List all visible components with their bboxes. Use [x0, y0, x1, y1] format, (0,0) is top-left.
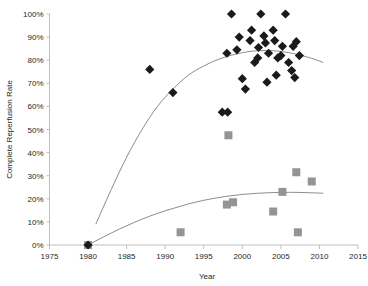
data-point-diamond — [168, 88, 177, 97]
y-tick-label: 40% — [27, 149, 43, 158]
x-tick-label: 2005 — [272, 252, 290, 261]
x-tick-label: 2010 — [311, 252, 329, 261]
data-point-diamond — [235, 33, 244, 42]
lower-trend-curve — [88, 192, 323, 245]
data-point-diamond — [238, 74, 247, 83]
scatter-plot: 0%10%20%30%40%50%60%70%80%90%100% 197519… — [0, 0, 368, 286]
x-tick-label: 1990 — [156, 252, 174, 261]
data-point-square — [292, 168, 300, 176]
y-axis-title: Complete Reperfusion Rate — [5, 80, 14, 179]
data-point-diamond — [270, 36, 279, 45]
data-point-diamond — [222, 49, 231, 58]
data-point-diamond — [295, 51, 304, 60]
data-point-diamond — [269, 26, 278, 35]
data-point-diamond — [264, 49, 273, 58]
x-tick-label: 1995 — [195, 252, 213, 261]
data-point-diamond — [281, 9, 290, 18]
y-tick-label: 100% — [23, 10, 43, 19]
y-tick-label: 80% — [27, 56, 43, 65]
data-point-square — [294, 228, 302, 236]
y-tick-label: 30% — [27, 172, 43, 181]
data-point-diamond — [247, 26, 256, 35]
y-tick-label: 0% — [32, 241, 44, 250]
upper-trend-curve — [96, 51, 324, 225]
data-point-diamond — [241, 84, 250, 93]
data-point-square — [308, 177, 316, 185]
trendlines-group — [88, 51, 323, 246]
y-tick-label: 70% — [27, 79, 43, 88]
axes-group — [47, 14, 359, 249]
data-point-diamond — [261, 38, 270, 47]
x-tick-labels: 197519801985199019952000200520102015 — [41, 252, 368, 261]
y-tick-label: 50% — [27, 126, 43, 135]
data-point-square — [278, 188, 286, 196]
y-tick-label: 60% — [27, 102, 43, 111]
data-point-diamond — [278, 42, 287, 51]
data-point-square — [224, 131, 232, 139]
x-tick-label: 2015 — [349, 252, 367, 261]
data-point-square — [269, 208, 277, 216]
data-point-diamond — [284, 58, 293, 67]
x-axis-title: Year — [199, 272, 216, 281]
x-tick-label: 2000 — [233, 252, 251, 261]
y-tick-label: 10% — [27, 218, 43, 227]
y-tick-label: 20% — [27, 195, 43, 204]
data-point-diamond — [262, 78, 271, 87]
data-point-square — [177, 228, 185, 236]
y-tick-labels: 0%10%20%30%40%50%60%70%80%90%100% — [23, 10, 43, 250]
data-point-diamond — [223, 108, 232, 117]
data-point-diamond — [256, 9, 265, 18]
data-point-diamond — [272, 71, 281, 80]
y-tick-label: 90% — [27, 33, 43, 42]
x-tick-label: 1980 — [79, 252, 97, 261]
x-tick-label: 1975 — [41, 252, 59, 261]
data-point-square — [229, 198, 237, 206]
series-square-markers — [84, 131, 316, 249]
data-point-diamond — [145, 65, 154, 74]
data-point-diamond — [259, 31, 268, 40]
data-point-diamond — [227, 9, 236, 18]
chart-container: 0%10%20%30%40%50%60%70%80%90%100% 197519… — [0, 0, 368, 286]
data-point-diamond — [245, 36, 254, 45]
x-tick-label: 1985 — [118, 252, 136, 261]
